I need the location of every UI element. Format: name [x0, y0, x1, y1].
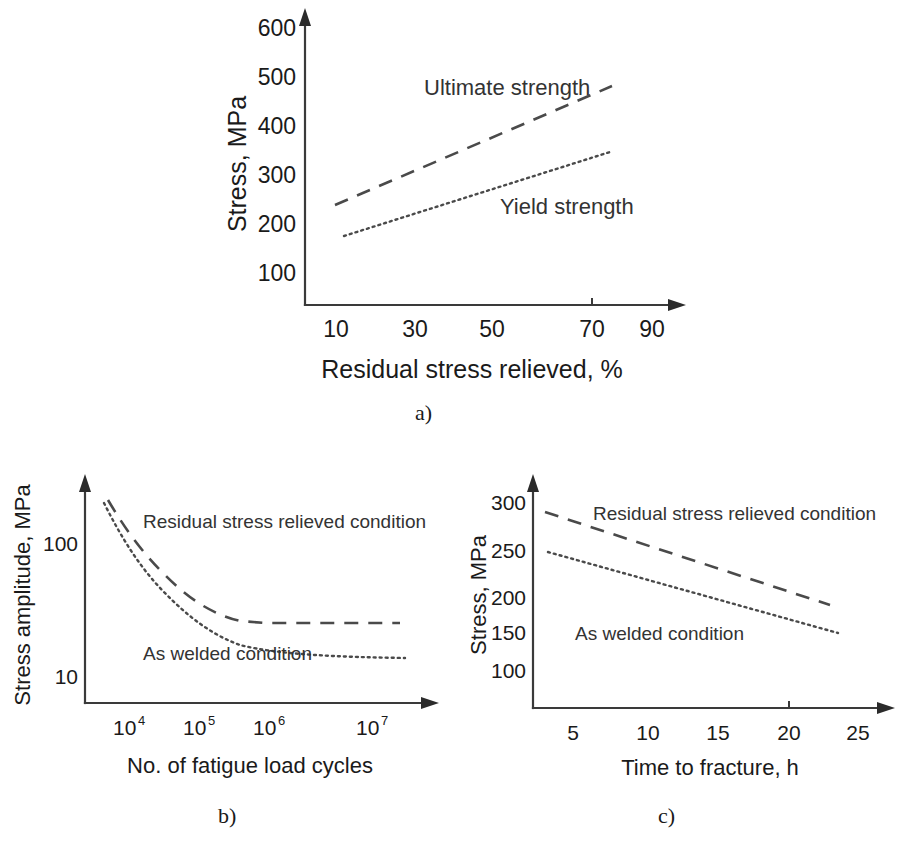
chart-c-series-as-welded: [548, 552, 838, 633]
chart-c-x-axis-arrow: [877, 702, 895, 714]
chart-c-x-tick-label: 25: [846, 721, 869, 744]
figure-root: 600 500 400 300 200 100 10 30 50 70 90 S…: [0, 0, 914, 851]
chart-b-y-axis-arrow: [79, 474, 91, 492]
chart-c-svg: 300 250 200 150 100 5 10 15 20 25 Stress…: [460, 455, 914, 785]
caption-b: b): [218, 803, 236, 829]
chart-c-y-tick-label: 300: [491, 491, 526, 514]
chart-panel-a: 600 500 400 300 200 100 10 30 50 70 90 S…: [200, 0, 700, 390]
chart-a-svg: 600 500 400 300 200 100 10 30 50 70 90 S…: [200, 0, 700, 390]
chart-c-x-tick-label: 5: [567, 721, 579, 744]
chart-c-x-axis-title: Time to fracture, h: [621, 755, 799, 780]
chart-b-annotation-as-welded: As welded condition: [143, 643, 312, 664]
chart-a-y-axis-title: Stress, MPa: [223, 96, 251, 232]
chart-a-x-tick-label: 70: [579, 316, 605, 342]
chart-b-x-tick-label: 10 5: [183, 713, 215, 739]
chart-b-x-tick-base: 10: [113, 716, 136, 739]
chart-a-annotation-ultimate-strength: Ultimate strength: [424, 75, 590, 100]
chart-b-x-tick-base: 10: [253, 716, 276, 739]
chart-a-x-tick-label: 90: [639, 316, 665, 342]
chart-b-x-tick-base: 10: [183, 716, 206, 739]
chart-a-y-tick-label: 400: [258, 113, 296, 139]
chart-a-x-axis-title: Residual stress relieved, %: [321, 355, 623, 383]
chart-a-x-axis-arrow: [668, 299, 686, 311]
chart-a-y-tick-label: 100: [258, 260, 296, 286]
chart-a-annotation-yield-strength: Yield strength: [500, 194, 634, 219]
chart-b-x-tick-label: 10 6: [253, 713, 285, 739]
caption-a: a): [415, 400, 432, 426]
chart-c-y-tick-label: 250: [491, 539, 526, 562]
chart-c-y-tick-label: 200: [491, 586, 526, 609]
chart-panel-c: 300 250 200 150 100 5 10 15 20 25 Stress…: [460, 455, 914, 785]
chart-b-svg: 100 10 10 4 10 5 10 6 10 7 Stress amplit…: [0, 455, 470, 785]
chart-c-x-tick-label: 15: [706, 721, 729, 744]
chart-c-x-tick-label: 10: [636, 721, 659, 744]
chart-panel-b: 100 10 10 4 10 5 10 6 10 7 Stress amplit…: [0, 455, 470, 785]
chart-a-x-tick-label: 50: [479, 316, 505, 342]
chart-b-x-tick-label: 10 7: [356, 713, 388, 739]
chart-c-annotation-as-welded: As welded condition: [575, 623, 744, 644]
chart-c-y-axis-arrow: [527, 474, 539, 492]
chart-a-x-tick-label: 10: [323, 316, 349, 342]
chart-a-y-tick-label: 500: [258, 64, 296, 90]
chart-b-y-tick-label: 100: [43, 532, 78, 555]
chart-a-series-ultimate-strength: [335, 86, 612, 205]
chart-b-annotation-residual-stress-relieved: Residual stress relieved condition: [143, 511, 426, 532]
chart-b-x-tick-exponent: 5: [208, 713, 215, 728]
chart-b-x-axis-arrow: [421, 697, 439, 709]
chart-b-x-tick-base: 10: [356, 716, 379, 739]
chart-b-x-tick-exponent: 6: [278, 713, 285, 728]
chart-c-y-tick-label: 100: [491, 659, 526, 682]
chart-c-y-tick-label: 150: [491, 621, 526, 644]
chart-c-y-axis-title: Stress, MPa: [466, 534, 491, 655]
chart-a-y-tick-label: 600: [258, 15, 296, 41]
chart-c-annotation-residual-stress-relieved: Residual stress relieved condition: [593, 503, 876, 524]
chart-a-y-tick-label: 300: [258, 162, 296, 188]
chart-b-x-tick-label: 10 4: [113, 713, 145, 739]
chart-b-y-axis-title: Stress amplitude, MPa: [10, 484, 35, 706]
chart-a-x-tick-label: 30: [402, 316, 428, 342]
caption-c: c): [658, 803, 675, 829]
chart-a-y-tick-label: 200: [258, 211, 296, 237]
chart-a-y-axis-arrow: [299, 8, 311, 26]
chart-b-x-tick-exponent: 4: [138, 713, 145, 728]
chart-b-y-tick-label: 10: [55, 665, 78, 688]
chart-b-x-tick-exponent: 7: [381, 713, 388, 728]
chart-c-x-tick-label: 20: [777, 721, 800, 744]
chart-b-x-axis-title: No. of fatigue load cycles: [127, 753, 373, 778]
